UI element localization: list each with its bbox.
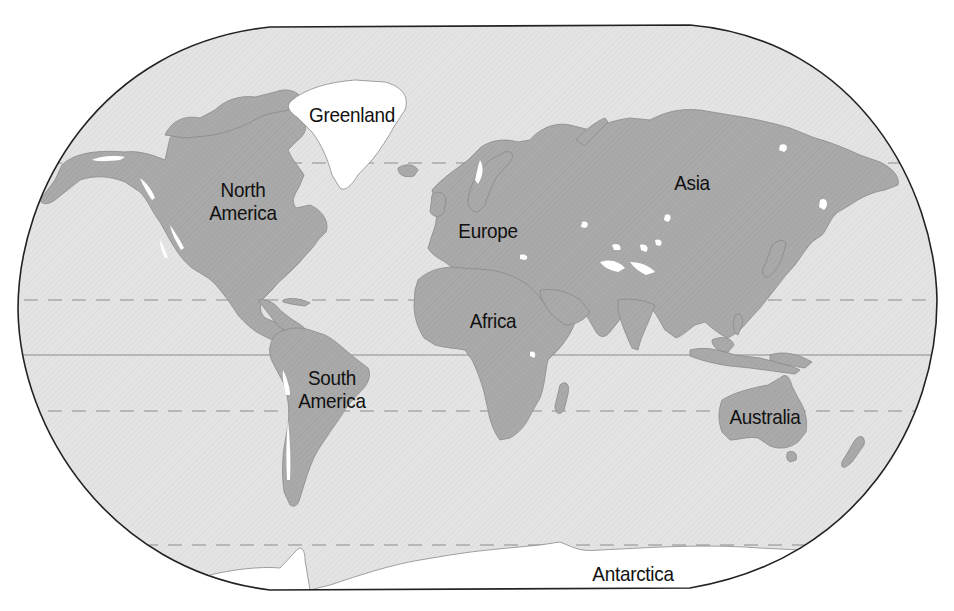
british-isles [430,192,446,216]
label-africa: Africa [462,309,525,332]
iceland [398,165,418,177]
label-australia: Australia [720,405,810,428]
tasmania [787,451,797,462]
label-asia: Asia [670,171,715,194]
label-north-america: North America [198,178,288,224]
world-map: Greenland North America Europe Asia Afri… [0,0,954,611]
label-south-america: South America [287,366,377,412]
label-greenland: Greenland [303,103,402,126]
label-europe: Europe [452,219,524,242]
world-map-graphic [0,0,954,611]
label-antarctica: Antarctica [584,562,683,585]
